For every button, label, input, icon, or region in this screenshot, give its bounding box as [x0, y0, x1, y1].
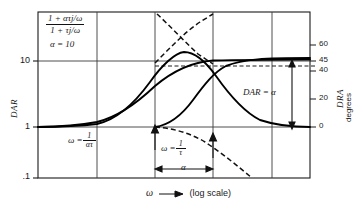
curve-secondary-rise: [155, 58, 310, 127]
omega-break2-fraction: 1 τ: [176, 140, 186, 157]
left-axis-ticks: [33, 61, 38, 178]
dar-equals-alpha-arrow: [289, 60, 295, 129]
omega-break1-fraction: 1 ατ: [83, 132, 96, 149]
right-tick-label-45: 45: [319, 56, 328, 64]
alpha-value-label: α = 10: [50, 40, 74, 49]
x-axis-omega-symbol: ω: [146, 187, 153, 198]
right-tick-label-20: 20: [319, 94, 328, 102]
fraction-denominator: 1 + τj/ω: [46, 25, 84, 35]
left-tick-label-point1: .1: [8, 172, 30, 181]
right-tick-label-0: 0: [319, 122, 323, 130]
x-axis-label: ω (log scale): [146, 188, 231, 198]
omega-break1-denominator: ατ: [83, 141, 96, 149]
transfer-function-box: 1 + ατj/ω 1 + τj/ω: [46, 14, 84, 35]
omega-break2-annotation: ω = 1 τ: [161, 140, 186, 157]
omega-break1-lhs: ω =: [68, 136, 83, 145]
dar-equals-alpha-label: DAR = α: [243, 88, 276, 97]
omega1-pointer-arrow: [152, 125, 159, 150]
x-axis-scale-note: (log scale): [190, 188, 232, 198]
left-axis-title: DAR: [10, 99, 19, 118]
asymptote-falling-dashed: [157, 14, 213, 64]
fraction-numerator: 1 + ατj/ω: [46, 14, 84, 25]
alpha-span-label: α: [181, 163, 186, 172]
omega-break2-denominator: τ: [176, 149, 186, 157]
left-tick-label-1: 1: [8, 122, 30, 131]
omega-break2-lhs: ω =: [161, 144, 176, 153]
right-axis-subtitle: degrees: [345, 93, 353, 122]
right-axis-ticks: [310, 45, 316, 127]
transfer-function-fraction: 1 + ατj/ω 1 + τj/ω: [46, 14, 84, 35]
right-tick-label-40: 40: [319, 66, 328, 74]
bode-plot-figure: 1 + ατj/ω 1 + τj/ω α = 10 10 1 .1 DAR 60…: [0, 0, 363, 212]
left-tick-label-10: 10: [8, 56, 30, 65]
omega-break1-annotation: ω = 1 ατ: [68, 132, 96, 149]
right-tick-label-60: 60: [319, 40, 328, 48]
